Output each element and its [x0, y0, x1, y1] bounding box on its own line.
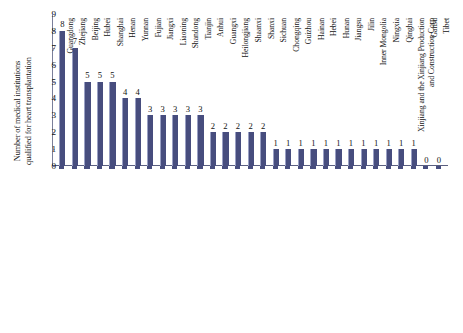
- bar-chart-figure: Number of medical institutions qualified…: [0, 0, 463, 333]
- x-tick-label-line: Jiangsu: [354, 18, 364, 168]
- x-tick-label-line: Guangdong: [66, 18, 76, 168]
- x-tick-label-line: Anhui: [216, 18, 226, 168]
- x-tick-label-line: Liaoning: [179, 18, 189, 168]
- x-tick-label-line: Beijing: [91, 18, 101, 168]
- x-tick-label-line: Qinghai: [405, 18, 415, 168]
- x-tick-label: Guangdong: [66, 18, 77, 168]
- x-tick-label: Shaanxi: [254, 18, 265, 168]
- x-tick-label-line: Guangxi: [229, 18, 239, 168]
- x-tick-label: Sichuan: [279, 18, 290, 168]
- x-tick-label: Henan: [128, 18, 139, 168]
- x-tick-label: Jilin: [367, 18, 378, 168]
- x-tick-label-line: Yunnan: [141, 18, 151, 168]
- x-tick-label: Guangxi: [229, 18, 240, 168]
- x-tick-label: Qinghai: [405, 18, 416, 168]
- x-tick-label: Guizhou: [304, 18, 315, 168]
- x-tick-label-line: Hainan: [317, 18, 327, 168]
- x-tick-label: Yunnan: [141, 18, 152, 168]
- x-tick-label-line: Shanghai: [116, 18, 126, 168]
- x-tick-label: Beijing: [91, 18, 102, 168]
- x-tick-label-line: Inner Mongolia: [379, 18, 389, 168]
- x-tick-label: Gansu: [430, 18, 441, 168]
- x-tick-label-line: Shandong: [191, 18, 201, 168]
- x-tick-label-line: Fujian: [154, 18, 164, 168]
- x-tick-label: Heilongjiang: [241, 18, 252, 168]
- x-tick-label: Jiangxi: [166, 18, 177, 168]
- x-tick-label: Shanghai: [116, 18, 127, 168]
- x-tick-label: Tianjin: [204, 18, 215, 168]
- x-tick-label-line: Shanxi: [267, 18, 277, 168]
- x-tick-label: Hubei: [103, 18, 114, 168]
- x-tick-label-line: Jilin: [367, 18, 377, 168]
- x-tick-label-line: Tibet: [442, 18, 452, 168]
- x-tick-label: Hunan: [342, 18, 353, 168]
- x-tick-label: Inner Mongolia: [379, 18, 390, 168]
- x-tick-label: Tibet: [442, 18, 453, 168]
- bar: [59, 31, 65, 166]
- x-tick-label-line: Jiangxi: [166, 18, 176, 168]
- y-tick-mark: [52, 166, 55, 167]
- x-tick-label: Fujian: [154, 18, 165, 168]
- x-tick-label: Liaoning: [179, 18, 190, 168]
- x-tick-label: Shandong: [191, 18, 202, 168]
- x-tick-label-line: Hubei: [103, 18, 113, 168]
- x-tick-label: Anhui: [216, 18, 227, 168]
- x-tick-label-line: Shaanxi: [254, 18, 264, 168]
- x-tick-label: Zhejiang: [78, 18, 89, 168]
- x-axis-labels: GuangdongZhejiangBeijingHubeiShanghaiHen…: [52, 168, 452, 328]
- x-tick-label: Hebei: [329, 18, 340, 168]
- x-tick-label: Hainan: [317, 18, 328, 168]
- x-tick-label-line: Chongqing: [292, 18, 302, 168]
- x-tick-label-line: Gansu: [430, 18, 440, 168]
- x-tick-label: Chongqing: [292, 18, 303, 168]
- x-tick-label-line: Xinjiang and the Xinjiang Production: [417, 18, 427, 168]
- x-tick-label: Ningxia: [392, 18, 403, 168]
- x-tick-label-line: Sichuan: [279, 18, 289, 168]
- y-axis-title-line-1: Number of medical institutions: [13, 23, 24, 199]
- x-tick-label: Shanxi: [267, 18, 278, 168]
- x-tick-label-line: Henan: [128, 18, 138, 168]
- x-tick-label-line: Ningxia: [392, 18, 402, 168]
- x-tick-label-line: Tianjin: [204, 18, 214, 168]
- x-tick-label-line: Hebei: [329, 18, 339, 168]
- x-tick-label-line: Zhejiang: [78, 18, 88, 168]
- x-tick-label-line: Hunan: [342, 18, 352, 168]
- x-tick-label: Jiangsu: [354, 18, 365, 168]
- x-tick-label-line: Guizhou: [304, 18, 314, 168]
- x-tick-label-line: Heilongjiang: [241, 18, 251, 168]
